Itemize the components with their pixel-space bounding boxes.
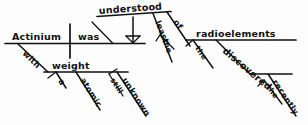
word-the-least: the: [160, 37, 174, 54]
word-discovered: discovered: [221, 45, 274, 92]
pedestal-foot-right: [133, 36, 140, 43]
word-unknown: unknown: [120, 76, 152, 118]
word-a: a: [56, 77, 68, 87]
word-atomic: atomic: [78, 76, 104, 109]
diagram-svg: understood least the of radioelements th…: [0, 0, 308, 125]
word-was: was: [78, 31, 100, 42]
word-weight: weight: [52, 60, 90, 71]
word-with: with: [21, 48, 43, 70]
pedestal-foot-left: [126, 36, 133, 43]
word-radioelements: radioelements: [196, 28, 276, 39]
word-of: of: [171, 17, 185, 31]
sentence-diagram-canvas: understood least the of radioelements th…: [0, 0, 308, 125]
word-actinium: Actinium: [12, 31, 61, 42]
a-tick: [48, 72, 56, 78]
